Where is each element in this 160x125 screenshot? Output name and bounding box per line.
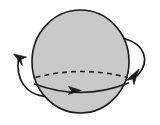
sphere-rotation-diagram: Rotating sphere with equatorial directio…	[0, 0, 160, 125]
sphere-body	[32, 10, 129, 113]
figure-container: Rotating sphere with equatorial directio…	[0, 0, 160, 125]
